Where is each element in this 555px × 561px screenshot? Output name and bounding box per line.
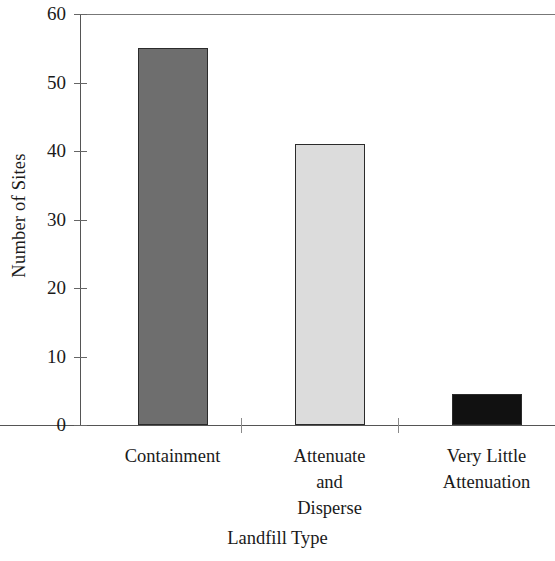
y-axis-tick-label: 50 bbox=[6, 73, 66, 92]
y-axis-tick-label: 0 bbox=[6, 415, 66, 434]
y-axis-tick-label: 10 bbox=[6, 347, 66, 366]
category-label-line: Very Little bbox=[408, 443, 555, 469]
bar bbox=[452, 394, 522, 425]
y-axis-tick bbox=[74, 83, 87, 84]
y-axis-tick-label: 40 bbox=[6, 141, 66, 160]
x-axis-category-label: Containment bbox=[94, 443, 251, 469]
x-axis-title: Landfill Type bbox=[0, 528, 555, 549]
y-axis-tick bbox=[74, 357, 87, 358]
bar bbox=[138, 48, 208, 425]
bar-chart-figure: Number of Sites 0102030405060Containment… bbox=[0, 0, 555, 561]
category-label-line: Attenuate bbox=[251, 443, 408, 469]
y-axis-tick-label: 60 bbox=[6, 4, 66, 23]
y-axis-tick-label: 20 bbox=[6, 278, 66, 297]
x-axis-title-text: Landfill Type bbox=[227, 528, 328, 548]
bar bbox=[295, 144, 365, 425]
y-axis-tick bbox=[74, 14, 87, 15]
category-label-line: Attenuation bbox=[408, 469, 555, 495]
x-axis-category-label: AttenuateandDisperse bbox=[251, 443, 408, 521]
category-label-line: Containment bbox=[94, 443, 251, 469]
y-axis-tick bbox=[74, 220, 87, 221]
x-axis-tick bbox=[398, 418, 399, 433]
y-axis-tick bbox=[74, 425, 87, 426]
x-axis-tick bbox=[241, 418, 242, 433]
y-axis-tick bbox=[74, 288, 87, 289]
y-axis-tick bbox=[74, 151, 87, 152]
category-label-line: Disperse bbox=[251, 495, 408, 521]
plot-top-border bbox=[80, 14, 555, 15]
category-label-line: and bbox=[251, 469, 408, 495]
x-axis-category-label: Very LittleAttenuation bbox=[408, 443, 555, 495]
y-axis-tick-label: 30 bbox=[6, 210, 66, 229]
